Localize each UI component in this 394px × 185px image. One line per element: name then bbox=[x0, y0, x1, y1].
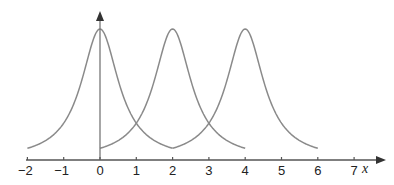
x-tick-label: 4 bbox=[242, 163, 249, 178]
x-tick-label: 0 bbox=[96, 163, 103, 178]
x-tick-label: 6 bbox=[314, 163, 321, 178]
x-tick-label: 1 bbox=[133, 163, 140, 178]
curves-group bbox=[27, 29, 317, 148]
bell-curves-chart: −2−101234567 x bbox=[0, 0, 394, 185]
x-tick-label: −1 bbox=[54, 163, 69, 178]
curve-centered-4 bbox=[173, 29, 318, 148]
curve-centered-2 bbox=[100, 29, 245, 148]
x-axis-label: x bbox=[361, 161, 369, 176]
axes-group: −2−101234567 x bbox=[18, 11, 386, 178]
x-tick-label: 5 bbox=[278, 163, 285, 178]
x-tick-label: 7 bbox=[350, 163, 357, 178]
x-tick-label: −2 bbox=[18, 163, 33, 178]
y-axis-arrow-icon bbox=[96, 11, 104, 21]
x-tick-label: 2 bbox=[169, 163, 176, 178]
x-tick-label: 3 bbox=[205, 163, 212, 178]
x-axis-arrow-icon bbox=[376, 156, 386, 164]
